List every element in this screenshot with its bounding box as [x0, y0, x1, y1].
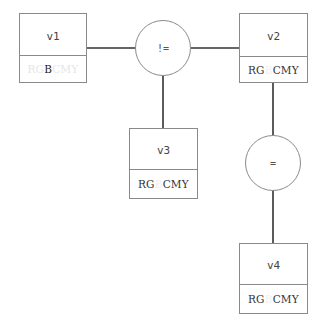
color-available: CMY — [273, 293, 299, 305]
node-label: v1 — [20, 14, 86, 58]
color-domain: RGBCMY — [20, 55, 86, 82]
color-excluded: B — [265, 64, 273, 76]
color-available: RG — [248, 64, 265, 76]
color-available: RG — [138, 178, 155, 190]
color-domain: RGBCMY — [240, 56, 307, 82]
color-available: RG — [248, 293, 265, 305]
operator-label: = — [270, 158, 276, 169]
constraint-graph: v1 RGBCMY != v2 RGBCMY v3 RGBCMY = v4 RG… — [0, 0, 322, 324]
variable-node-v2[interactable]: v2 RGBCMY — [239, 13, 308, 83]
node-label: v4 — [240, 244, 307, 287]
color-excluded: CMY — [52, 63, 78, 75]
node-label: v2 — [240, 14, 307, 59]
variable-node-v3[interactable]: v3 RGBCMY — [129, 128, 198, 199]
color-excluded: B — [265, 293, 273, 305]
color-available: CMY — [273, 64, 299, 76]
operator-label: != — [157, 43, 169, 54]
color-excluded: B — [155, 178, 163, 190]
constraint-equal[interactable]: = — [245, 135, 301, 191]
color-domain: RGBCMY — [240, 284, 307, 313]
color-domain: RGBCMY — [130, 169, 197, 198]
color-active: B — [44, 63, 52, 75]
color-available: CMY — [163, 178, 189, 190]
variable-node-v1[interactable]: v1 RGBCMY — [19, 13, 87, 83]
constraint-not-equal[interactable]: != — [135, 20, 191, 76]
node-label: v3 — [130, 129, 197, 172]
color-excluded: RG — [28, 63, 45, 75]
variable-node-v4[interactable]: v4 RGBCMY — [239, 243, 308, 314]
